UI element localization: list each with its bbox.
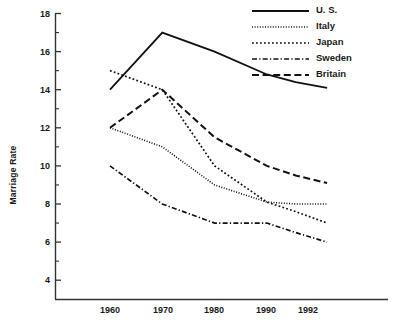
legend-label-sweden: Sweden xyxy=(316,52,352,63)
legend-label-britain: Britain xyxy=(316,68,346,79)
y-axis-title: Marriage Rate xyxy=(8,138,18,212)
data-series-group xyxy=(110,33,327,243)
legend-label-italy: Italy xyxy=(316,20,335,31)
legend-label-japan: Japan xyxy=(316,36,343,47)
y-tick-label-8: 8 xyxy=(34,199,50,209)
x-tick-label-1980: 1980 xyxy=(194,305,234,315)
y-tick-label-6: 6 xyxy=(34,237,50,247)
x-tick-label-1960: 1960 xyxy=(90,305,130,315)
x-tick-label-1990: 1990 xyxy=(246,305,286,315)
chart-plot-area xyxy=(0,0,397,330)
y-tick-label-18: 18 xyxy=(34,9,50,19)
series-line-japan xyxy=(110,71,327,223)
y-tick-label-4: 4 xyxy=(34,275,50,285)
series-line-u-s xyxy=(110,33,327,90)
marriage-rate-line-chart: Marriage Rate 18 16 14 12 10 8 6 4 1960 … xyxy=(0,0,397,330)
y-tick-label-10: 10 xyxy=(34,161,50,171)
legend-label-us: U. S. xyxy=(316,4,337,15)
x-tick-label-1970: 1970 xyxy=(143,305,183,315)
y-tick-label-12: 12 xyxy=(34,123,50,133)
x-tick-label-1992: 1992 xyxy=(288,305,328,315)
y-tick-label-14: 14 xyxy=(34,85,50,95)
legend-swatch-group xyxy=(252,11,309,75)
y-tick-label-16: 16 xyxy=(34,47,50,57)
